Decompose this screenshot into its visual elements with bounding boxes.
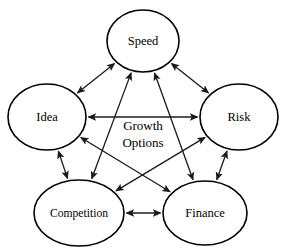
node-label-risk: Risk (228, 110, 252, 124)
growth-options-diagram: SpeedIdeaRiskCompetitionFinance Growth O… (0, 0, 285, 251)
node-label-finance: Finance (185, 206, 225, 220)
node-finance[interactable]: Finance (163, 181, 247, 245)
node-risk[interactable]: Risk (200, 84, 278, 150)
edge-speed-idea (77, 64, 114, 93)
center-label: Growth Options (122, 118, 163, 150)
node-competition[interactable]: Competition (34, 180, 124, 246)
edge-speed-risk (171, 64, 208, 93)
center-label-line2: Options (122, 135, 163, 150)
center-label-line1: Growth (123, 118, 163, 133)
edge-idea-competition (58, 151, 67, 178)
diagram-canvas: SpeedIdeaRiskCompetitionFinance Growth O… (0, 0, 285, 251)
node-label-idea: Idea (36, 110, 58, 124)
node-idea[interactable]: Idea (8, 84, 86, 150)
node-label-speed: Speed (128, 34, 159, 48)
edge-risk-finance (217, 151, 227, 180)
node-label-competition: Competition (50, 207, 108, 220)
node-speed[interactable]: Speed (107, 10, 179, 72)
